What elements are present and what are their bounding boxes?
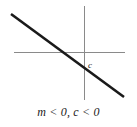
linear-graph-figure: c m < 0, c < 0	[0, 0, 137, 127]
line-graph-negative-slope	[11, 14, 124, 97]
figure-caption: m < 0, c < 0	[0, 105, 137, 120]
y-intercept-label: c	[88, 60, 92, 70]
